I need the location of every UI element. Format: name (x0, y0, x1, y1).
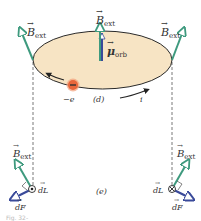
panel-e-label: (e) (96, 187, 107, 196)
vector-arrow-glyph: → (96, 7, 103, 16)
b-ext-arrow-e-left (17, 163, 32, 189)
panel-d-label: (d) (93, 95, 104, 104)
electron-icon (67, 79, 80, 92)
magnetic-moment-diagram: Bext → Bext → Bext → μorb → −e (d) i Bex… (0, 0, 201, 221)
df-label-right: dF (172, 203, 183, 212)
dl-out-of-page-icon (29, 186, 36, 193)
current-direction-arrow (120, 90, 147, 98)
b-ext-arrow-e-right (172, 163, 187, 189)
dl-label-right: dL (153, 186, 163, 195)
vector-arrow-glyph: → (27, 19, 34, 28)
dl-into-page-icon (169, 186, 176, 193)
b-ext-label-right: Bext (160, 26, 180, 40)
vector-arrow-glyph: → (155, 179, 160, 186)
right-angle-marker (22, 182, 27, 190)
vector-arrow-glyph: → (174, 196, 179, 203)
vector-arrow-glyph: → (40, 179, 45, 186)
vector-arrow-glyph: → (177, 142, 183, 150)
caption-fragment: Fig. 32- (6, 214, 28, 221)
b-ext-label-left: Bext (26, 26, 46, 40)
current-label: i (140, 95, 143, 104)
right-angle-marker (177, 181, 182, 190)
electron-charge-label: −e (63, 95, 75, 104)
vector-arrow-glyph: → (17, 196, 22, 203)
df-label-left: dF (15, 203, 26, 212)
vector-arrow-glyph: → (161, 19, 168, 28)
vector-arrow-glyph: → (13, 142, 19, 150)
dl-label-left: dL (38, 186, 48, 195)
vector-arrow-glyph: → (107, 38, 114, 47)
b-ext-label-center: Bext (95, 14, 115, 28)
